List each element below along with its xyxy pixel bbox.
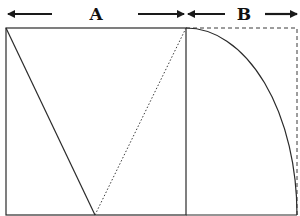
label-a: A [88,4,103,24]
dimension-b: B [188,4,297,24]
label-b: B [237,4,251,24]
dotted-diagonal [95,28,186,215]
solid-diagonal [6,28,95,215]
extension-rect-dashed [186,28,297,215]
square [6,28,186,215]
golden-rectangle-diagram: A B [0,0,300,216]
golden-arc [186,28,297,215]
dimension-a: A [8,4,184,24]
